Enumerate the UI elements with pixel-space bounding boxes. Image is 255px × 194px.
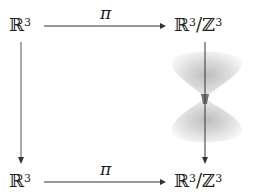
node-bottom-right: ℝ3/ℤ3 <box>174 171 222 191</box>
bottom-arrow-label: π <box>100 160 111 178</box>
hourglass-surface-icon <box>172 52 242 143</box>
bottom-arrow <box>44 179 166 185</box>
left-arrow <box>18 42 24 164</box>
top-arrow-label: π <box>100 4 111 22</box>
node-bottom-left: ℝ3 <box>9 171 31 191</box>
node-top-left: ℝ3 <box>9 15 31 35</box>
node-top-right: ℝ3/ℤ3 <box>174 15 222 35</box>
commutative-diagram: ℝ3 ℝ3/ℤ3 ℝ3 ℝ3/ℤ3 π π <box>0 0 255 194</box>
top-arrow <box>44 23 166 29</box>
